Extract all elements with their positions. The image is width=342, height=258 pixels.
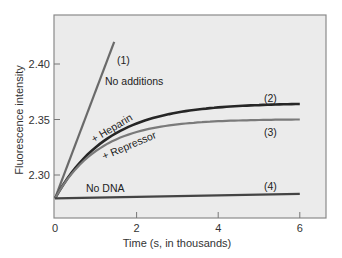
curve1-number-label: (1) xyxy=(117,54,130,66)
x-tick-label: 2 xyxy=(134,222,140,234)
y-tick-label: 2.35 xyxy=(29,114,50,126)
y-tick-label: 2.40 xyxy=(29,58,50,70)
curve4-number-label: (4) xyxy=(264,180,277,192)
curve1-text-label: No additions xyxy=(105,75,163,87)
curve2-number-label: (2) xyxy=(264,92,277,104)
curve4-text-label: No DNA xyxy=(86,182,125,194)
x-tick-label: 6 xyxy=(297,222,303,234)
x-tick-label: 4 xyxy=(215,222,221,234)
chart: 2.302.352.40 0246 Fluorescence intensity… xyxy=(0,0,342,258)
curve3-number-label: (3) xyxy=(264,126,277,138)
y-axis-label: Fluorescence intensity xyxy=(13,65,25,175)
y-tick-label: 2.30 xyxy=(29,169,50,181)
x-tick-label: 0 xyxy=(52,222,58,234)
x-axis-label: Time (s, in thousands) xyxy=(123,237,231,249)
